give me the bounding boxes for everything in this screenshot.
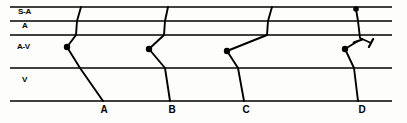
- tier-label-atrial: A: [22, 22, 27, 30]
- conduction-diagram-canvas: [0, 0, 407, 123]
- tier-gridlines-group: [10, 7, 392, 101]
- beat-label-b: B: [167, 105, 177, 115]
- beat-c-atrial-limb: [227, 7, 272, 51]
- ladder-diagram-figure: S-A A A-V V A B C D: [0, 0, 407, 123]
- beat-label-c: C: [241, 105, 251, 115]
- beat-a-ventricular-limb: [67, 47, 103, 101]
- beat-d-ventricular-limb: [345, 49, 358, 101]
- beat-c-ventricular-limb: [227, 51, 244, 101]
- beat-label-a: A: [99, 105, 109, 115]
- beat-d-block-bar-1: [354, 39, 362, 42]
- beat-d-sa-node-dot: [353, 6, 359, 12]
- tier-label-sinoatrial: S-A: [18, 8, 31, 16]
- beat-d-blocked-atrial-limb: [356, 9, 371, 43]
- beat-label-d: D: [357, 105, 367, 115]
- beat-a-av-node-dot: [64, 44, 70, 50]
- beat-b-av-node-dot: [146, 46, 152, 52]
- beat-b-ventricular-limb: [149, 49, 170, 101]
- beat-a-atrial-limb: [67, 7, 81, 47]
- beat-b-atrial-limb: [149, 7, 168, 49]
- tier-label-atrioventricular: A-V: [17, 43, 30, 51]
- tier-label-ventricular: V: [22, 76, 27, 84]
- beat-c-av-node-dot: [224, 48, 230, 54]
